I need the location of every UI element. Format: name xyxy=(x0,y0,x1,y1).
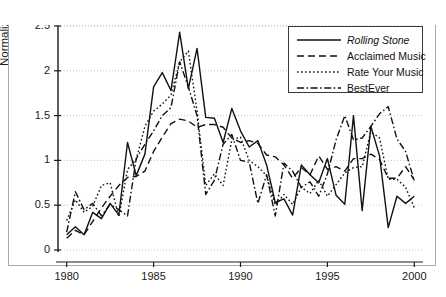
legend-line-sample xyxy=(295,35,343,45)
chart-figure: Normalized index 00.511.522.5 1980198519… xyxy=(0,0,446,297)
legend-line-sample xyxy=(295,51,343,61)
legend-label: Rolling Stone xyxy=(347,34,409,46)
legend-line-sample xyxy=(295,83,343,93)
top-mask xyxy=(0,0,446,25)
legend-item-acclaimed-music: Acclaimed Music xyxy=(289,48,422,64)
chart-legend: Rolling StoneAcclaimed MusicRate Your Mu… xyxy=(288,26,423,93)
legend-item-bestever: BestEver xyxy=(289,80,422,96)
legend-label: BestEver xyxy=(347,82,390,94)
legend-item-rolling-stone: Rolling Stone xyxy=(289,32,422,48)
legend-line-sample xyxy=(295,67,343,77)
legend-label: Rate Your Music xyxy=(347,66,423,78)
legend-label: Acclaimed Music xyxy=(347,50,426,62)
legend-item-rate-your-music: Rate Your Music xyxy=(289,64,422,80)
